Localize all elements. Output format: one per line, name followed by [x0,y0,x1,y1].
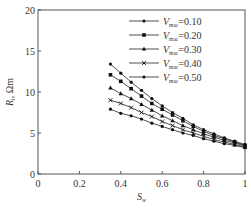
legend-item: Vmac=0.40 [129,58,201,70]
series-2 [109,73,247,147]
x-tick-label: 1 [243,178,248,189]
legend-item: Vmac=0.50 [129,72,201,84]
legend-item: Vmac=0.20 [129,30,201,42]
legend-label: Vmac=0.10 [163,16,201,28]
y-tick-label: 0 [30,169,35,180]
legend-item: Vmac=0.10 [129,16,201,28]
chart: 00.20.40.60.8105101520SwRt, Ωm Vmac=0.10… [0,0,251,213]
x-tick-label: 0.2 [73,178,86,189]
y-tick-label: 15 [25,46,35,57]
x-tick-label: 0.6 [156,178,169,189]
y-tick-label: 20 [25,5,35,16]
legend: Vmac=0.10Vmac=0.20Vmac=0.30Vmac=0.40Vmac… [129,16,201,84]
axes: 00.20.40.60.8105101520SwRt, Ωm [4,5,248,204]
legend-item: Vmac=0.30 [129,44,201,56]
legend-label: Vmac=0.30 [163,44,201,56]
x-tick-label: 0.4 [115,178,128,189]
y-axis-label: Rt, Ωm [4,78,16,107]
legend-label: Vmac=0.50 [163,72,201,84]
legend-label: Vmac=0.40 [163,58,201,70]
y-tick-label: 10 [25,87,35,98]
x-tick-label: 0.8 [197,178,210,189]
legend-label: Vmac=0.20 [163,30,201,42]
x-tick-label: 0 [36,178,41,189]
y-tick-label: 5 [30,128,35,139]
x-axis-label: Sw [137,191,146,203]
